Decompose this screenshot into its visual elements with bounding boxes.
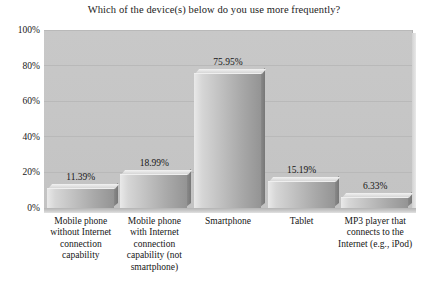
bar-value-label: 15.19% xyxy=(257,165,347,175)
y-axis-tick-60%: 60% xyxy=(0,96,40,106)
bar-front-face xyxy=(194,73,261,208)
x-axis-label-line: Tablet xyxy=(261,216,343,227)
chart-figure: Which of the device(s) below do you use … xyxy=(0,0,428,295)
bar-value-label: 18.99% xyxy=(109,158,199,168)
bar-front-face xyxy=(47,188,114,208)
x-axis-label-line: MP3 player that xyxy=(334,216,416,227)
bar[interactable] xyxy=(120,174,187,208)
y-axis-tick-80%: 80% xyxy=(0,61,40,71)
x-axis-label-line: capability xyxy=(40,250,122,261)
chart-title: Which of the device(s) below do you use … xyxy=(0,4,428,15)
y-axis-tick-40%: 40% xyxy=(0,132,40,142)
bar[interactable] xyxy=(47,188,114,208)
x-axis-label-line: Mobile phone xyxy=(114,216,196,227)
y-axis-tick-20%: 20% xyxy=(0,167,40,177)
bar[interactable] xyxy=(341,197,408,208)
bar-value-label: 6.33% xyxy=(330,181,420,191)
x-axis-label-line: capability (not xyxy=(114,250,196,261)
bar-front-face xyxy=(341,197,408,208)
gridline-100% xyxy=(44,30,412,31)
x-axis-label-line: with Internet xyxy=(114,227,196,238)
x-axis-label-line: connection xyxy=(114,239,196,250)
bar[interactable] xyxy=(268,181,335,208)
bar-front-face xyxy=(120,174,187,208)
bar-value-label: 11.39% xyxy=(36,172,126,182)
x-axis-label-line: Mobile phone xyxy=(40,216,122,227)
bar-value-label: 75.95% xyxy=(183,57,273,67)
x-axis-label-line: Internet (e.g., iPod) xyxy=(334,239,416,250)
x-axis-label-line: connection xyxy=(40,239,122,250)
y-axis-tick-0%: 0% xyxy=(0,203,40,213)
x-axis-label-line: connects to the xyxy=(334,227,416,238)
plot-floor xyxy=(44,208,416,213)
x-axis-label: Tablet xyxy=(261,216,343,227)
y-axis-tick-100%: 100% xyxy=(0,25,40,35)
x-axis-label-line: Smartphone xyxy=(187,216,269,227)
x-axis-label: Mobile phonewith Internetconnectioncapab… xyxy=(114,216,196,273)
bar-front-face xyxy=(268,181,335,208)
x-axis-label: Mobile phonewithout Internetconnectionca… xyxy=(40,216,122,262)
bar[interactable] xyxy=(194,73,261,208)
x-axis-label: Smartphone xyxy=(187,216,269,227)
x-axis-label: MP3 player thatconnects to theInternet (… xyxy=(334,216,416,250)
x-axis-label-line: without Internet xyxy=(40,227,122,238)
x-axis-label-line: smartphone) xyxy=(114,262,196,273)
